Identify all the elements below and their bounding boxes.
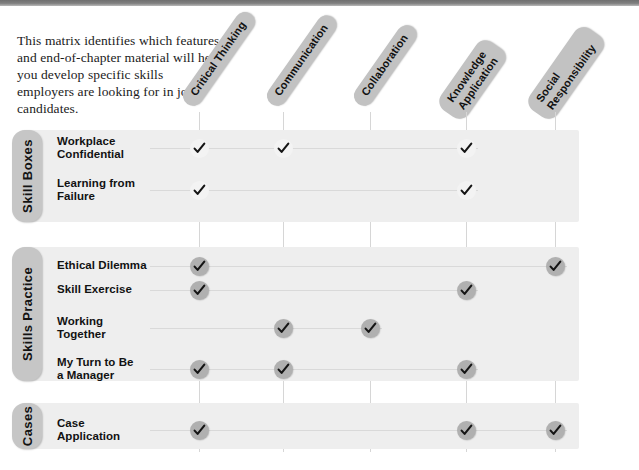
row-connector-case-application xyxy=(150,430,567,431)
check-icon-learning-from-failure-critical-thinking xyxy=(190,181,209,200)
check-icon-ethical-dilemma-social-responsibility xyxy=(546,257,565,276)
section-tab-skills-practice[interactable]: Skills Practice xyxy=(12,247,42,381)
section-tab-label-skill-boxes: Skill Boxes xyxy=(20,139,35,213)
column-header-knowledge-application: Knowledge Application xyxy=(435,36,510,123)
check-icon-workplace-confidential-knowledge-application xyxy=(457,139,476,158)
section-tab-cases[interactable]: Cases xyxy=(12,403,42,449)
check-icon-ethical-dilemma-critical-thinking xyxy=(190,257,209,276)
check-icon-skill-exercise-critical-thinking xyxy=(190,281,209,300)
row-connector-ethical-dilemma xyxy=(150,266,567,267)
check-icon-working-together-collaboration xyxy=(361,319,380,338)
check-icon-my-turn-to-be-a-manager-critical-thinking xyxy=(190,360,209,379)
check-icon-workplace-confidential-critical-thinking xyxy=(190,139,209,158)
check-icon-case-application-social-responsibility xyxy=(546,421,565,440)
check-icon-learning-from-failure-knowledge-application xyxy=(457,181,476,200)
section-tab-label-skills-practice: Skills Practice xyxy=(20,267,35,361)
skills-matrix-page: This matrix identifies which features an… xyxy=(0,0,639,470)
check-icon-case-application-critical-thinking xyxy=(190,421,209,440)
check-icon-my-turn-to-be-a-manager-knowledge-application xyxy=(457,360,476,379)
column-header-communication: Communication xyxy=(263,11,340,109)
check-icon-case-application-knowledge-application xyxy=(457,421,476,440)
section-tab-skill-boxes[interactable]: Skill Boxes xyxy=(12,130,42,222)
check-icon-my-turn-to-be-a-manager-communication xyxy=(274,360,293,379)
column-header-collaboration: Collaboration xyxy=(350,21,420,109)
row-connector-working-together xyxy=(150,328,382,329)
check-icon-workplace-confidential-communication xyxy=(274,139,293,158)
top-rule xyxy=(0,0,639,6)
section-tab-label-cases: Cases xyxy=(20,406,35,446)
check-icon-working-together-communication xyxy=(274,319,293,338)
column-header-social-responsibility: Social Responsibility xyxy=(524,23,608,123)
check-icon-skill-exercise-knowledge-application xyxy=(457,281,476,300)
